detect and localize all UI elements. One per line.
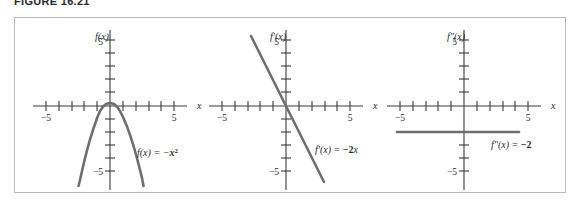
x-axis-label: x <box>372 100 378 111</box>
x-tick-label-positive: 5 <box>172 113 177 123</box>
equation-label-f-double-prime: f″(x) = −2 <box>491 139 532 151</box>
graph-svg-f-double-prime: f″(x) x 5 −5 −5 5 f″(x) = −2 <box>383 18 567 194</box>
figure-caption: FIGURE 16.21 <box>14 0 90 7</box>
equation-var: x <box>353 144 359 155</box>
figure-frame: f(x) x 5 −5 −5 5 f(x) = −x2 <box>14 17 566 193</box>
linear-curve <box>251 36 324 182</box>
equation-label-f: f(x) = −x2 <box>137 147 178 159</box>
y-tick-label-negative: −5 <box>93 167 103 177</box>
x-tick-label-negative: −5 <box>41 113 51 123</box>
y-tick-label-positive: 5 <box>274 37 279 47</box>
equation-prefix: f″(x) = <box>491 139 521 151</box>
equation-label-f-prime: f′(x) = −2x <box>315 144 359 156</box>
equation-prefix: f′(x) = <box>315 144 343 156</box>
y-tick-label-negative: −5 <box>447 167 457 177</box>
y-tick-label-positive: 5 <box>98 37 103 47</box>
graph-panel-f: f(x) x 5 −5 −5 5 f(x) = −x2 <box>29 18 213 194</box>
graph-panel-f-prime: f′(x) x 5 −5 −5 5 f′(x) = −2x <box>205 18 389 194</box>
x-axis-label: x <box>196 100 202 111</box>
x-tick-label-negative: −5 <box>395 113 405 123</box>
equation-exponent: 2 <box>174 147 178 155</box>
x-tick-label-negative: −5 <box>217 113 227 123</box>
equation-coefficient: −2 <box>343 144 354 155</box>
y-tick-label-negative: −5 <box>269 167 279 177</box>
graph-svg-f-prime: f′(x) x 5 −5 −5 5 f′(x) = −2x <box>205 18 389 194</box>
equation-prefix: f(x) = − <box>137 147 169 159</box>
graph-panel-f-double-prime: f″(x) x 5 −5 −5 5 f″(x) = −2 <box>383 18 567 194</box>
graph-svg-f: f(x) x 5 −5 −5 5 f(x) = −x2 <box>29 18 213 194</box>
x-tick-label-positive: 5 <box>348 113 353 123</box>
equation-coefficient: −2 <box>521 139 532 150</box>
x-axis-label: x <box>550 100 556 111</box>
y-tick-label-positive: 5 <box>452 37 457 47</box>
x-tick-label-positive: 5 <box>526 113 531 123</box>
